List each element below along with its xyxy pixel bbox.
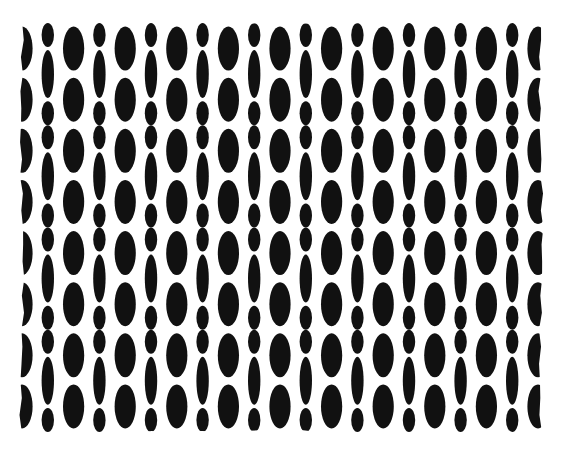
ellipse-lattice-pattern: Repeating Ellipse Lattice A dense op-art… bbox=[0, 0, 567, 456]
artboard: Repeating Ellipse Lattice A dense op-art… bbox=[0, 0, 567, 456]
ink-field bbox=[20, 21, 544, 434]
black-ground bbox=[20, 21, 544, 434]
